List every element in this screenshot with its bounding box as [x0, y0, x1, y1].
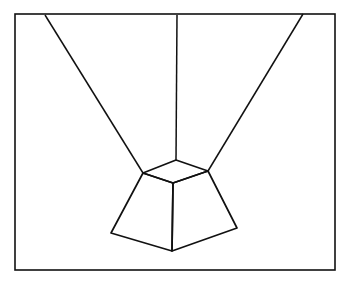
diagram-frame	[15, 14, 335, 270]
left-face	[111, 173, 173, 251]
projection-rays	[45, 14, 303, 173]
ray-right	[208, 14, 303, 171]
ray-left	[45, 15, 143, 173]
frustum-solid	[111, 160, 237, 251]
perspective-diagram	[0, 0, 350, 285]
right-face	[172, 171, 237, 251]
top-face	[143, 160, 208, 183]
ray-center	[176, 15, 177, 160]
